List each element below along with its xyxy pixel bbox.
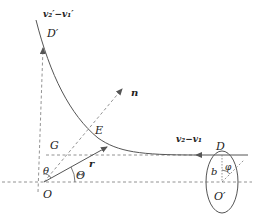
scattering-diagram: v₂′−v₁′ D′ n E G r v₂−v₁ D θ Θ O b φ O′ — [0, 0, 254, 219]
label-o-prime: O′ — [214, 190, 226, 203]
label-d: D — [215, 140, 225, 153]
angle-arc-theta-big — [71, 167, 75, 182]
label-e: E — [94, 124, 103, 137]
label-d-prime: D′ — [46, 27, 59, 40]
label-outgoing-velocity: v₂′−v₁′ — [43, 9, 74, 19]
label-phi: φ — [225, 162, 232, 172]
label-b: b — [211, 166, 217, 177]
label-o: O — [43, 188, 52, 201]
label-normal-n: n — [131, 87, 138, 98]
label-r: r — [89, 158, 95, 169]
label-theta-small: θ — [43, 165, 49, 176]
label-theta-big: Θ — [76, 169, 85, 182]
label-incoming-velocity: v₂−v₁ — [176, 134, 202, 144]
label-g: G — [50, 139, 59, 152]
trajectory-curve — [36, 20, 196, 155]
